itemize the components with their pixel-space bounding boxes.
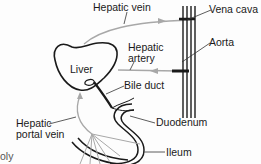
label-cut-off: oly	[0, 151, 13, 162]
arrowhead-icon	[150, 68, 158, 74]
leader-line	[106, 86, 124, 94]
ileum-shape	[72, 142, 120, 164]
leader-line	[130, 116, 155, 123]
gallbladder-shape	[85, 80, 94, 86]
label-hepatic-portal-vein-2: portal vein	[16, 129, 64, 140]
arrowhead-icon	[158, 18, 166, 24]
label-liver: Liver	[70, 64, 93, 75]
hepatic-artery-vessel	[118, 70, 178, 71]
label-ileum: Ileum	[166, 147, 192, 158]
label-hepatic-artery-2: artery	[128, 53, 155, 64]
arrowhead-icon	[77, 92, 83, 99]
hepatic-circulation-diagram: Hepatic vein Vena cava Aorta Hepatic art…	[0, 0, 261, 164]
leader-line	[182, 43, 210, 62]
label-vena-cava: Vena cava	[209, 4, 258, 15]
label-duodenum: Duodenum	[156, 117, 207, 128]
leader-line	[49, 117, 76, 124]
label-aorta: Aorta	[209, 37, 234, 48]
label-hepatic-vein: Hepatic vein	[93, 2, 151, 13]
hepatic-portal-vein-vessel	[77, 96, 92, 134]
label-bile-duct: Bile duct	[124, 80, 164, 91]
bile-duct-vessel	[94, 82, 112, 108]
leader-line	[124, 12, 127, 24]
